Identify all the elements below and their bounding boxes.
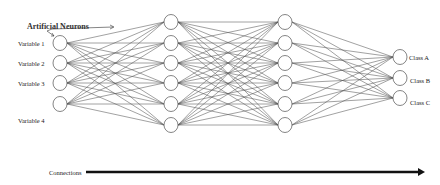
connection-edge [67, 22, 164, 83]
hidden2-neuron-1 [278, 15, 292, 30]
hidden2-neuron-3 [278, 56, 292, 71]
connection-edge [292, 57, 393, 83]
output-neuron-3 [393, 91, 407, 106]
hidden2-neuron-5 [278, 97, 292, 112]
hidden1-neuron-1 [164, 15, 178, 30]
connection-edge [292, 98, 393, 125]
connection-edges [67, 22, 393, 125]
hidden2-neuron-2 [278, 36, 292, 51]
connection-edge [292, 98, 393, 104]
connection-edge [292, 43, 393, 78]
connection-edge [292, 63, 393, 78]
hidden2-neuron-4 [278, 76, 292, 91]
artificial-neurons-label: Artificial Neurons [27, 22, 89, 31]
connection-edge [67, 43, 164, 125]
output-neuron-2 [393, 71, 407, 86]
connection-edge [67, 63, 164, 125]
connection-edge [292, 43, 393, 57]
connection-edge [292, 57, 393, 125]
input-neuron-4 [53, 97, 67, 112]
input-label-variable-4: Variable 4 [18, 117, 45, 124]
hidden1-neuron-2 [164, 36, 178, 51]
connections-label: Connections [49, 169, 82, 176]
connections-arrowhead-icon [418, 168, 425, 176]
hidden1-neuron-5 [164, 97, 178, 112]
input-label-variable-1: Variable 1 [18, 40, 45, 47]
output-neuron-1 [393, 50, 407, 65]
input-neuron-3 [53, 76, 67, 91]
hidden1-neuron-3 [164, 56, 178, 71]
output-label-class-c: Class C [410, 99, 430, 106]
connection-edge [67, 104, 164, 125]
hidden1-neuron-4 [164, 76, 178, 91]
annotation-pointer-line [47, 31, 54, 36]
connections-arrow [86, 168, 425, 176]
connection-edge [292, 57, 393, 63]
hidden2-neuron-6 [278, 118, 292, 133]
output-label-class-a: Class A [409, 54, 429, 61]
input-label-variable-3: Variable 3 [18, 80, 45, 87]
hidden1-neuron-6 [164, 118, 178, 133]
input-neuron-1 [53, 36, 67, 51]
connection-edge [292, 57, 393, 104]
input-label-variable-2: Variable 2 [18, 60, 45, 67]
input-neuron-2 [53, 56, 67, 71]
connection-edge [292, 22, 393, 57]
output-label-class-b: Class B [410, 77, 430, 84]
